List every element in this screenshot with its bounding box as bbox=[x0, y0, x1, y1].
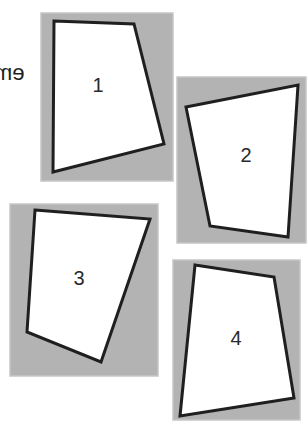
panel-4: 4 bbox=[173, 260, 300, 420]
panel-3-label: 3 bbox=[73, 267, 84, 289]
panel-2-label: 2 bbox=[240, 144, 251, 166]
panel-1: 1 bbox=[41, 13, 173, 181]
panel-4-label: 4 bbox=[230, 327, 241, 349]
panel-3: 3 bbox=[10, 204, 158, 376]
panel-1-label: 1 bbox=[92, 74, 103, 96]
quadrilateral-figure: 1 2 3 4 bbox=[0, 0, 307, 422]
panel-2: 2 bbox=[177, 77, 306, 243]
